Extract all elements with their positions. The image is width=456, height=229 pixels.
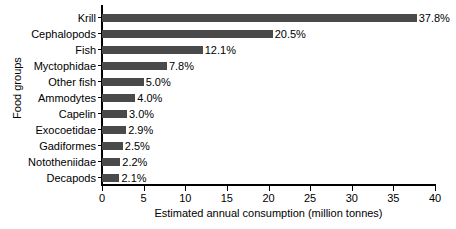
x-axis-tick-label: 10 <box>170 191 200 205</box>
category-label: Capelin <box>0 106 96 122</box>
bar-value-label: 2.9% <box>126 122 153 138</box>
x-axis-tick-label: 5 <box>129 191 159 205</box>
category-label: Other fish <box>0 74 96 90</box>
category-label: Fish <box>0 42 96 58</box>
bar <box>102 126 126 134</box>
category-label: Krill <box>0 10 96 26</box>
bar-value-label: 4.0% <box>135 90 162 106</box>
bar <box>102 174 119 182</box>
bar-row: Other fish5.0% <box>102 74 435 90</box>
bar-value-label: 7.8% <box>167 58 194 74</box>
x-axis-tick-label: 40 <box>420 191 450 205</box>
bar-row: Myctophidae7.8% <box>102 58 435 74</box>
bar <box>102 62 167 70</box>
x-axis-tick-label: 25 <box>295 191 325 205</box>
category-label: Nototheniidae <box>0 154 96 170</box>
bar <box>102 158 120 166</box>
plot-area: Krill37.8%Cephalopods20.5%Fish12.1%Mycto… <box>102 6 435 185</box>
bar-value-label: 37.8% <box>417 10 450 26</box>
x-axis-tick-label: 15 <box>212 191 242 205</box>
bar <box>102 14 417 22</box>
bar <box>102 94 135 102</box>
bar-value-label: 3.0% <box>127 106 154 122</box>
bar-row: Nototheniidae2.2% <box>102 154 435 170</box>
category-label: Cephalopods <box>0 26 96 42</box>
bar <box>102 30 273 38</box>
category-label: Decapods <box>0 170 96 186</box>
bar-row: Decapods2.1% <box>102 170 435 186</box>
bar-value-label: 2.2% <box>120 154 147 170</box>
bar <box>102 46 203 54</box>
bar <box>102 78 144 86</box>
bar <box>102 142 123 150</box>
x-axis-tick-label: 30 <box>337 191 367 205</box>
bar-value-label: 20.5% <box>273 26 306 42</box>
category-label: Myctophidae <box>0 58 96 74</box>
category-label: Ammodytes <box>0 90 96 106</box>
bar-row: Capelin3.0% <box>102 106 435 122</box>
bar-row: Ammodytes4.0% <box>102 90 435 106</box>
x-axis-tick-label: 20 <box>254 191 284 205</box>
category-label: Gadiformes <box>0 138 96 154</box>
bar-value-label: 12.1% <box>203 42 236 58</box>
bar-row: Gadiformes2.5% <box>102 138 435 154</box>
bar <box>102 110 127 118</box>
bar-chart: Food groups Krill37.8%Cephalopods20.5%Fi… <box>0 0 456 229</box>
bar-row: Fish12.1% <box>102 42 435 58</box>
bar-value-label: 5.0% <box>144 74 171 90</box>
bar-row: Krill37.8% <box>102 10 435 26</box>
category-label: Exocoetidae <box>0 122 96 138</box>
x-axis-tick-label: 35 <box>378 191 408 205</box>
bar-row: Cephalopods20.5% <box>102 26 435 42</box>
bar-value-label: 2.5% <box>123 138 150 154</box>
bar-row: Exocoetidae2.9% <box>102 122 435 138</box>
bar-value-label: 2.1% <box>119 170 146 186</box>
x-axis-tick-label: 0 <box>87 191 117 205</box>
x-axis-title: Estimated annual consumption (million to… <box>102 207 435 219</box>
